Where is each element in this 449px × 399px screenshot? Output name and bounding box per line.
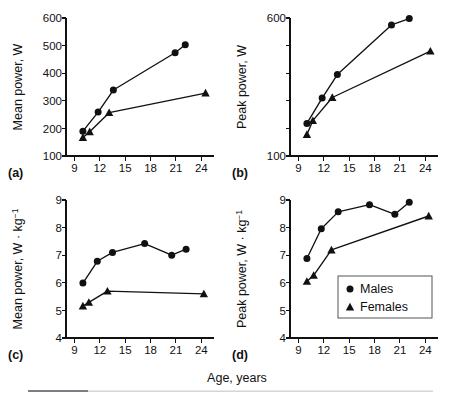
panel-c-y-tick-label: 6 <box>56 277 62 289</box>
panel-c-x-tick-label: 21 <box>170 344 183 356</box>
figure-background <box>0 0 449 399</box>
panel-d-y-tick-label: 8 <box>280 222 286 234</box>
panel-c-y-axis-label-exponent: −1 <box>10 208 20 218</box>
panel-d-circle-marker-icon <box>303 255 310 262</box>
panel-b-x-tick-label: 18 <box>368 162 381 174</box>
panel-d-circle-marker-icon <box>366 201 373 208</box>
panel-b-x-tick-label: 21 <box>394 162 407 174</box>
panel-d-y-tick-label: 9 <box>280 194 286 206</box>
panel-b-panel-label: (b) <box>232 166 248 180</box>
panel-d-circle-marker-icon <box>318 225 325 232</box>
panel-c-y-tick-label: 9 <box>56 194 62 206</box>
panel-d-x-tick-label: 24 <box>419 344 432 356</box>
panel-b-circle-marker-icon <box>334 71 341 78</box>
figure-container: 10020030040050060091215182124Mean power,… <box>0 0 449 399</box>
panel-a-y-tick-label: 600 <box>43 12 62 24</box>
panel-a-y-tick-label: 400 <box>43 67 62 79</box>
chart-legend: MalesFemales <box>338 276 432 318</box>
panel-d-panel-label: (d) <box>232 348 248 362</box>
panel-c-circle-marker-icon <box>168 252 175 259</box>
panel-d-y-axis-label-base: Peak power, W · kg <box>235 220 249 328</box>
panel-c-y-tick-label: 5 <box>56 305 62 317</box>
panel-c-circle-marker-icon <box>141 240 148 247</box>
panel-c-x-tick-label: 18 <box>144 344 157 356</box>
panel-c-circle-marker-icon <box>79 280 86 287</box>
panel-d-y-axis-label-exponent: −1 <box>234 210 244 220</box>
panel-b-y-axis-label: Peak power, W <box>235 45 249 129</box>
panel-b-x-tick-label: 24 <box>419 162 432 174</box>
panel-d-circle-marker-icon <box>406 199 413 206</box>
panel-b-x-tick-label: 9 <box>295 162 301 174</box>
panel-c-y-axis-label-base: Mean power, W · kg <box>11 218 25 329</box>
panel-b-circle-marker-icon <box>319 95 326 102</box>
panel-a-y-tick-label: 200 <box>43 123 62 135</box>
legend-circle-marker-icon <box>347 286 354 293</box>
panel-d-circle-marker-icon <box>391 211 398 218</box>
panel-c-circle-marker-icon <box>94 258 101 265</box>
panel-a-y-tick-label: 300 <box>43 95 62 107</box>
panel-d-y-axis-label: Peak power, W · kg−1 <box>234 210 249 328</box>
panel-c-y-tick-label: 4 <box>56 332 63 344</box>
panel-b-circle-marker-icon <box>388 21 395 28</box>
panel-c-x-tick-label: 12 <box>93 344 106 356</box>
four-panel-power-vs-age-chart: 10020030040050060091215182124Mean power,… <box>0 0 449 399</box>
panel-c-y-tick-label: 8 <box>56 222 62 234</box>
panel-b-y-tick-label: 100 <box>267 150 286 162</box>
panel-a-x-tick-label: 9 <box>71 162 77 174</box>
panel-a-y-axis-label: Mean power, W <box>11 43 25 130</box>
panel-d-circle-marker-icon <box>335 208 342 215</box>
panel-b-y-tick-label: 600 <box>267 12 286 24</box>
panel-c-panel-label: (c) <box>8 348 23 362</box>
panel-b-circle-marker-icon <box>406 15 413 22</box>
panel-a-panel-label: (a) <box>8 166 23 180</box>
panel-a-x-tick-label: 18 <box>144 162 157 174</box>
panel-a-circle-marker-icon <box>95 109 102 116</box>
panel-c-x-tick-label: 9 <box>71 344 77 356</box>
panel-a-x-tick-label: 15 <box>119 162 132 174</box>
panel-c-y-axis-label: Mean power, W · kg−1 <box>10 208 25 329</box>
panel-d-x-tick-label: 9 <box>295 344 301 356</box>
panel-d-x-tick-label: 21 <box>394 344 407 356</box>
bottom-rule-light-segment <box>88 391 433 392</box>
legend-label-females: Females <box>360 300 408 314</box>
panel-a-x-tick-label: 12 <box>93 162 106 174</box>
panel-d-y-tick-label: 4 <box>280 332 287 344</box>
panel-c-x-tick-label: 24 <box>195 344 208 356</box>
panel-d-y-tick-label: 5 <box>280 305 286 317</box>
panel-d-x-tick-label: 15 <box>343 344 356 356</box>
panel-a-circle-marker-icon <box>182 41 189 48</box>
panel-c-circle-marker-icon <box>183 246 190 253</box>
bottom-rule-dark-segment <box>28 390 88 392</box>
panel-c-x-tick-label: 15 <box>119 344 132 356</box>
panel-a-circle-marker-icon <box>172 49 179 56</box>
panel-a-y-tick-label: 500 <box>43 40 62 52</box>
legend-label-males: Males <box>360 282 393 296</box>
panel-a-y-tick-label: 100 <box>43 150 62 162</box>
panel-c-circle-marker-icon <box>109 249 116 256</box>
panel-a-x-tick-label: 24 <box>195 162 208 174</box>
panel-b-x-tick-label: 12 <box>317 162 330 174</box>
panel-d-x-tick-label: 18 <box>368 344 381 356</box>
panel-d-y-tick-label: 7 <box>280 249 286 261</box>
shared-x-axis-label: Age, years <box>207 371 267 385</box>
panel-b-x-tick-label: 15 <box>343 162 356 174</box>
panel-a-circle-marker-icon <box>110 87 117 94</box>
panel-d-y-tick-label: 6 <box>280 277 286 289</box>
panel-c-y-tick-label: 7 <box>56 249 62 261</box>
panel-a-x-tick-label: 21 <box>170 162 183 174</box>
panel-d-x-tick-label: 12 <box>317 344 330 356</box>
